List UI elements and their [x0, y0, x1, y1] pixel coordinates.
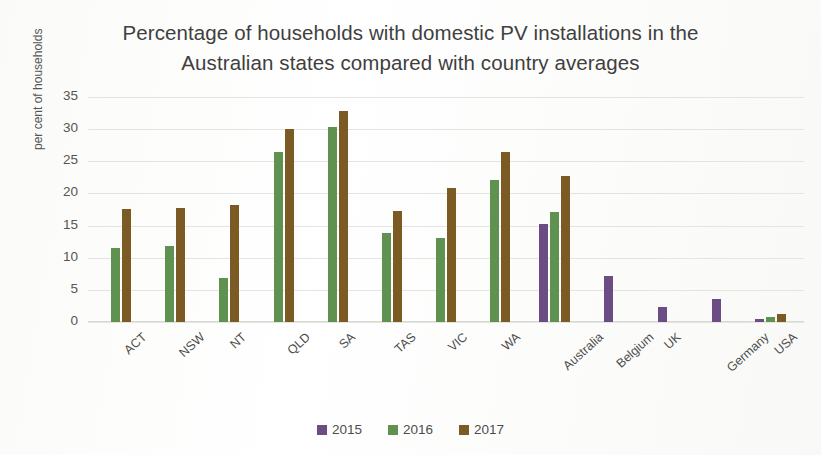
legend-label: 2016 — [403, 422, 433, 437]
x-axis-label-cell: VIC — [419, 322, 473, 392]
bar — [436, 238, 445, 322]
bar — [274, 152, 283, 322]
x-axis-label-cell: SA — [311, 322, 365, 392]
x-axis-tick-label: TAS — [392, 330, 419, 356]
legend-label: 2015 — [332, 422, 362, 437]
legend-item[interactable]: 2016 — [388, 422, 433, 437]
y-axis-tick-label: 10 — [38, 249, 78, 264]
bar — [339, 111, 348, 322]
bar — [393, 211, 402, 322]
x-axis-tick-label: NT — [228, 330, 250, 352]
legend-swatch-icon — [317, 425, 327, 435]
legend-swatch-icon — [459, 425, 469, 435]
bar — [561, 176, 570, 322]
plot-area: 05101520253035 — [88, 97, 804, 322]
x-axis-tick-label: WA — [499, 330, 523, 354]
y-axis-tick-label: 5 — [38, 281, 78, 296]
x-axis-label-cell: UK — [636, 322, 690, 392]
chart-title: Percentage of households with domestic P… — [60, 18, 761, 78]
y-axis-tick-label: 15 — [38, 217, 78, 232]
x-axis-tick-label: VIC — [445, 330, 470, 354]
legend-item[interactable]: 2015 — [317, 422, 362, 437]
bar — [219, 278, 228, 322]
x-axis-label-cell: WA — [473, 322, 527, 392]
bar — [539, 224, 548, 322]
x-axis-label-cell: NT — [202, 322, 256, 392]
y-axis-tick-label: 20 — [38, 184, 78, 199]
x-axis-tick-label: ACT — [121, 330, 149, 357]
bar — [285, 129, 294, 323]
x-axis-label-cell: Germany — [690, 322, 744, 392]
bar-group — [581, 97, 635, 322]
x-axis-label-cell: NSW — [148, 322, 202, 392]
chart-title-line-1: Percentage of households with domestic P… — [123, 21, 699, 44]
x-axis-tick-label: SA — [336, 330, 358, 352]
bar — [382, 233, 391, 322]
bar — [604, 276, 613, 322]
bar — [712, 299, 721, 322]
bar-group — [690, 97, 744, 322]
bar — [122, 209, 131, 322]
bar-chart: Percentage of households with domestic P… — [0, 0, 821, 455]
bar-groups — [88, 97, 804, 322]
y-axis-tick-label: 35 — [38, 88, 78, 103]
bar — [165, 246, 174, 322]
y-axis-tick-label: 30 — [38, 120, 78, 135]
bar-group — [148, 97, 202, 322]
legend-label: 2017 — [474, 422, 504, 437]
bar — [501, 152, 510, 322]
bar-group — [94, 97, 148, 322]
bar — [550, 212, 559, 322]
y-axis-tick-label: 25 — [38, 152, 78, 167]
x-axis-label-cell: USA — [744, 322, 798, 392]
bar — [111, 248, 120, 322]
bar-group — [527, 97, 581, 322]
x-axis-label-cell: QLD — [256, 322, 310, 392]
legend-swatch-icon — [388, 425, 398, 435]
bar-group — [636, 97, 690, 322]
bar — [328, 127, 337, 322]
bar-group — [744, 97, 798, 322]
x-axis-label-cell: ACT — [94, 322, 148, 392]
chart-title-line-2: Australian states compared with country … — [181, 51, 639, 74]
bar-group — [419, 97, 473, 322]
chart-legend: 201520162017 — [0, 422, 821, 437]
x-axis-label-cell: Belgium — [581, 322, 635, 392]
x-axis-tick-label: USA — [772, 330, 800, 358]
bar-group — [256, 97, 310, 322]
x-axis-label-cell: TAS — [365, 322, 419, 392]
bar — [447, 188, 456, 322]
bar — [490, 180, 499, 322]
x-axis-labels: ACTNSWNTQLDSATASVICWAAustraliaBelgiumUKG… — [88, 322, 804, 392]
x-axis-tick-label: QLD — [284, 330, 312, 358]
bar-group — [473, 97, 527, 322]
x-axis-tick-label: UK — [661, 330, 683, 352]
bar-group — [365, 97, 419, 322]
y-axis-tick-label: 0 — [38, 313, 78, 328]
bar — [658, 307, 667, 322]
x-axis-label-cell: Australia — [527, 322, 581, 392]
bar — [176, 208, 185, 322]
legend-item[interactable]: 2017 — [459, 422, 504, 437]
bar — [230, 205, 239, 322]
bar-group — [311, 97, 365, 322]
bar — [777, 314, 786, 322]
bar-group — [202, 97, 256, 322]
